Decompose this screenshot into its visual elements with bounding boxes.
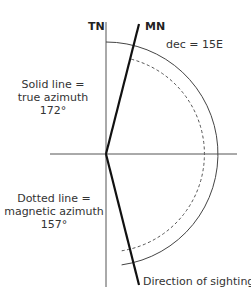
magnetic-azimuth-arc (120, 59, 205, 251)
solid-line-legend: Solid line = true azimuth 172° (8, 78, 98, 117)
solid-line-text-1: Solid line = (8, 78, 98, 91)
solid-line-text-3: 172° (8, 104, 98, 117)
magnetic-north-label: MN (145, 20, 165, 33)
solid-line-text-2: true azimuth (8, 91, 98, 104)
sighting-line (106, 154, 139, 285)
dotted-line-text-2: magnetic azimuth (4, 205, 104, 218)
dotted-line-text-3: 157° (4, 218, 104, 231)
dotted-line-text-1: Dotted line = (4, 192, 104, 205)
true-azimuth-arc (106, 42, 218, 265)
declination-label: dec = 15E (166, 38, 223, 51)
true-north-label: TN (88, 20, 105, 33)
dotted-line-legend: Dotted line = magnetic azimuth 157° (4, 192, 104, 231)
direction-of-sighting-label: Direction of sighting (143, 275, 251, 288)
